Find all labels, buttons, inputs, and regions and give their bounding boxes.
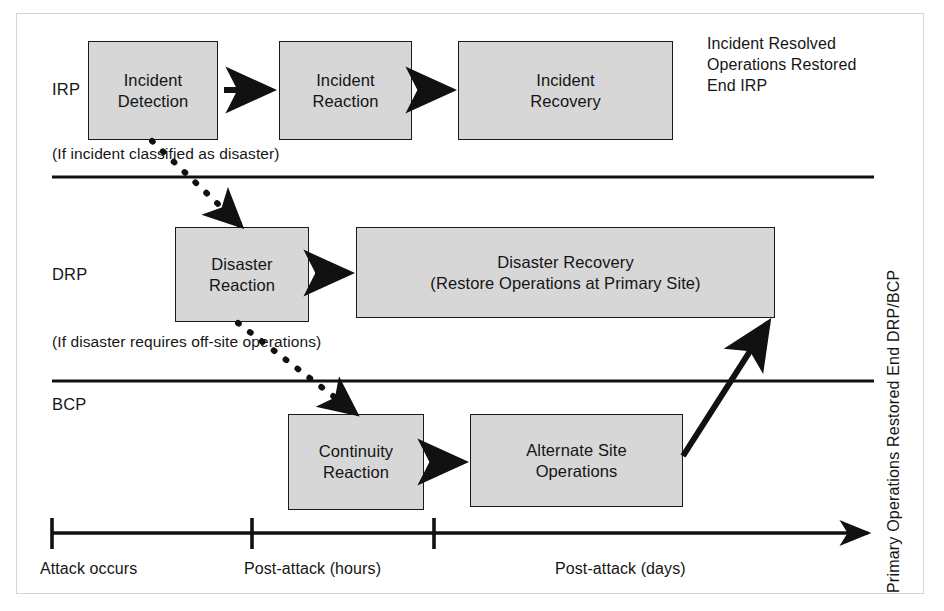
process-box-incident-detection[interactable]: Incident Detection — [88, 41, 218, 140]
note-drp-bcp-end: Primary Operations Restored End DRP/BCP — [885, 270, 903, 593]
process-box-disaster-reaction[interactable]: Disaster Reaction — [175, 227, 309, 322]
timeline-tick-label-post-attack-days: Post-attack (days) — [555, 560, 686, 578]
condition-label-disaster-to-continuity: (If disaster requires off-site operation… — [52, 333, 321, 351]
lane-label-drp: DRP — [52, 265, 87, 284]
note-irp-end: Incident Resolved Operations Restored En… — [707, 33, 857, 96]
process-box-disaster-recovery[interactable]: Disaster Recovery (Restore Operations at… — [356, 227, 775, 318]
process-box-alternate-site-operations[interactable]: Alternate Site Operations — [470, 414, 683, 507]
timeline-tick-label-post-attack-hours: Post-attack (hours) — [244, 560, 381, 578]
process-box-incident-reaction[interactable]: Incident Reaction — [279, 41, 412, 140]
process-box-incident-recovery[interactable]: Incident Recovery — [458, 41, 673, 140]
timeline-tick-label-attack-occurs: Attack occurs — [40, 560, 137, 578]
condition-label-incident-to-disaster: (If incident classified as disaster) — [52, 145, 280, 163]
lane-label-irp: IRP — [52, 80, 80, 99]
figure-root: IRP DRP BCP Incident Detection Incident … — [0, 0, 944, 611]
lane-label-bcp: BCP — [52, 395, 87, 414]
process-box-continuity-reaction[interactable]: Continuity Reaction — [288, 414, 424, 510]
